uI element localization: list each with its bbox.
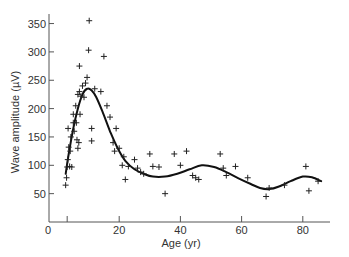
y-tick-label: 200	[28, 103, 46, 115]
plus-marker-icon	[112, 148, 118, 154]
y-tick-label: 150	[28, 131, 46, 143]
y-tick-label: 300	[28, 46, 46, 58]
x-tick-label: 20	[113, 224, 125, 236]
plus-marker-icon	[65, 157, 71, 163]
plus-marker-icon	[98, 89, 104, 95]
plus-marker-icon	[232, 163, 238, 169]
plus-marker-icon	[65, 125, 71, 131]
chart-canvas: 5010015020025030035020406080 Age (yr) Wa…	[0, 0, 349, 257]
plus-marker-icon	[113, 125, 119, 131]
fitted-curve-path	[66, 89, 322, 190]
plus-marker-icon	[122, 176, 128, 182]
fitted-curve	[66, 89, 322, 190]
scatter-chart: 5010015020025030035020406080 Age (yr) Wa…	[0, 0, 349, 257]
plus-marker-icon	[263, 193, 269, 199]
plus-marker-icon	[89, 138, 95, 144]
plus-marker-icon	[63, 182, 69, 188]
plus-marker-icon	[171, 151, 177, 157]
plus-marker-icon	[150, 163, 156, 169]
plus-marker-icon	[132, 157, 138, 163]
plus-marker-icon	[125, 163, 131, 169]
plus-marker-icon	[107, 114, 113, 120]
plus-marker-icon	[147, 151, 153, 157]
plus-marker-icon	[104, 103, 110, 109]
y-tick-label: 350	[28, 18, 46, 30]
plus-marker-icon	[64, 175, 70, 181]
x-tick-label: 80	[297, 224, 309, 236]
plus-marker-icon	[303, 163, 309, 169]
plus-marker-icon	[101, 53, 107, 59]
y-tick-label: 100	[28, 159, 46, 171]
plus-marker-icon	[84, 74, 90, 80]
x-tick-label: 40	[174, 224, 186, 236]
plus-marker-icon	[76, 63, 82, 69]
plus-marker-icon	[89, 125, 95, 131]
plus-marker-icon	[245, 175, 251, 181]
plus-marker-icon	[217, 151, 223, 157]
plus-marker-icon	[79, 83, 85, 89]
y-tick-label: 250	[28, 74, 46, 86]
plus-marker-icon	[306, 188, 312, 194]
plus-marker-icon	[184, 148, 190, 154]
plus-marker-icon	[86, 47, 92, 53]
plus-marker-icon	[156, 164, 162, 170]
plus-marker-icon	[83, 80, 89, 86]
plus-marker-icon	[177, 162, 183, 168]
x-tick-label: 60	[235, 224, 247, 236]
y-tick-label: 50	[34, 188, 46, 200]
plus-marker-icon	[76, 89, 82, 95]
plus-marker-icon	[75, 145, 81, 151]
plus-marker-icon	[86, 18, 92, 24]
x-axis-label: Age (yr)	[161, 237, 200, 249]
plus-marker-icon	[119, 162, 125, 168]
origin-label: 0	[45, 224, 51, 236]
plus-marker-icon	[162, 191, 168, 197]
y-axis-label: Wave amplitude (µV)	[9, 71, 21, 174]
